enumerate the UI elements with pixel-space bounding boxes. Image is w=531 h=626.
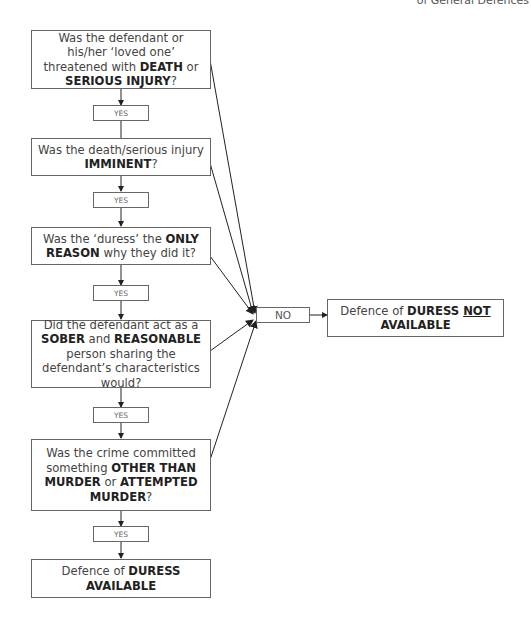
outcome-duress-not-available-text: Defence of DURESS NOT AVAILABLE [334,304,497,333]
question-other-than-murder-box: Was the crime committed something OTHER … [31,439,211,511]
question-only-reason-text: Was the ‘duress’ the ONLY REASON why the… [38,232,204,261]
question-imminent-text: Was the death/serious injury IMMINENT? [38,143,204,172]
no-label: NO [256,307,310,323]
yes-label-3: YES [93,285,149,301]
yes-label-2: YES [93,192,149,208]
outcome-duress-available-text: Defence of DURESS AVAILABLE [38,564,204,593]
yes-label-5: YES [93,526,149,542]
question-imminent-box: Was the death/serious injury IMMINENT? [31,138,211,176]
question-only-reason-box: Was the ‘duress’ the ONLY REASON why the… [31,227,211,265]
yes-label-1: YES [93,105,149,121]
outcome-duress-available-box: Defence of DURESS AVAILABLE [31,559,211,598]
question-other-than-murder-text: Was the crime committed something OTHER … [38,446,204,504]
question-sober-reasonable-box: Did the defendant act as a SOBER and REA… [31,320,211,388]
yes-label-4: YES [93,407,149,423]
question-threatened-box: Was the defendant or his/her ‘loved one’… [31,30,211,89]
question-threatened-text: Was the defendant or his/her ‘loved one’… [38,31,204,89]
outcome-duress-not-available-box: Defence of DURESS NOT AVAILABLE [327,299,504,337]
question-sober-reasonable-text: Did the defendant act as a SOBER and REA… [38,318,204,391]
